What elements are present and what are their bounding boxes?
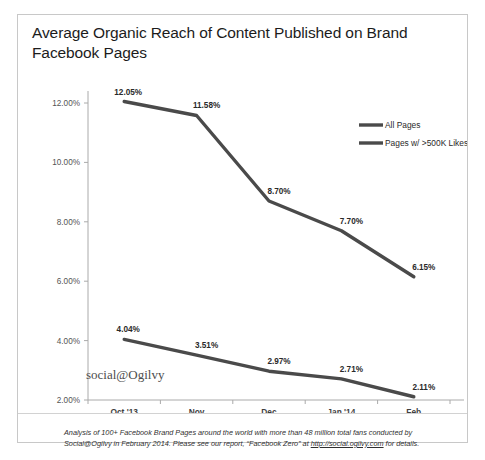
y-axis-tick-label: 12.00% [52, 99, 80, 108]
y-axis-tick-label: 2.00% [57, 396, 80, 405]
footnote-container: Analysis of 100+ Facebook Brand Pages ar… [18, 413, 467, 444]
x-axis: Oct '13NovDecJan '14Feb [88, 400, 464, 413]
data-point-label: 2.97% [267, 357, 291, 366]
series-line [124, 339, 414, 396]
series-lines [124, 102, 414, 397]
y-axis-tick-label: 4.00% [57, 337, 80, 346]
data-point-label: 6.15% [412, 263, 436, 272]
footnote-part2: for details. [384, 439, 420, 448]
ogilvy-watermark: social@Ogilvy [86, 367, 164, 383]
y-axis: 2.00%4.00%6.00%8.00%10.00%12.00% [52, 91, 88, 405]
data-point-label: 11.58% [193, 101, 221, 110]
footnote-text: Analysis of 100+ Facebook Brand Pages ar… [64, 428, 444, 449]
data-point-label: 8.70% [267, 187, 291, 196]
y-axis-tick-label: 10.00% [52, 158, 80, 167]
data-point-label: 12.05% [114, 88, 142, 97]
y-axis-tick-label: 8.00% [57, 218, 80, 227]
data-point-label: 2.11% [412, 383, 435, 392]
legend-label: All Pages [385, 120, 420, 130]
data-point-label: 3.51% [195, 341, 219, 350]
data-point-label: 7.70% [340, 217, 364, 226]
y-axis-tick-label: 6.00% [57, 277, 80, 286]
chart-legend: All PagesPages w/ >500K Likes [359, 120, 467, 148]
line-chart-plot: 2.00%4.00%6.00%8.00%10.00%12.00% Oct '13… [18, 15, 467, 413]
chart-card: Average Organic Reach of Content Publish… [17, 14, 468, 443]
data-point-label: 4.04% [117, 325, 141, 334]
data-point-label: 2.71% [340, 365, 364, 374]
legend-label: Pages w/ >500K Likes [385, 138, 467, 148]
ogilvy-report-link[interactable]: http://social.ogilvy.com [311, 439, 384, 448]
